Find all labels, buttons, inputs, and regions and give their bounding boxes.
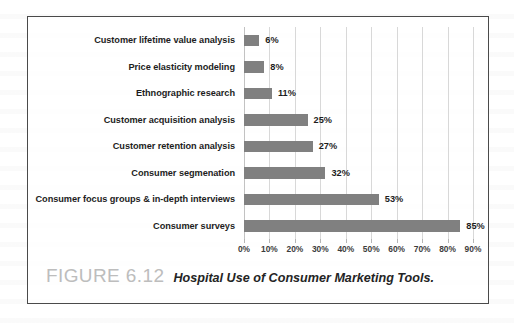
bar-value-label: 6% [265, 35, 278, 45]
bar-and-value: 53% [244, 186, 403, 213]
category-label: Consumer focus groups & in-depth intervi… [28, 194, 235, 204]
x-tick-label: 70% [414, 244, 431, 254]
bar [244, 35, 259, 47]
bar-value-label: 27% [319, 141, 337, 151]
bar [244, 194, 379, 206]
tick-mark [448, 239, 449, 243]
tick-mark [346, 239, 347, 243]
tick-mark [422, 239, 423, 243]
bar [244, 220, 460, 232]
bar [244, 88, 272, 100]
category-label: Consumer surveys [28, 221, 235, 231]
bar [244, 61, 264, 73]
x-tick-label: 0% [238, 244, 250, 254]
bar-row: Customer lifetime value analysis6% [28, 27, 488, 54]
category-label: Consumer segmenation [28, 168, 235, 178]
category-label: Customer retention analysis [28, 141, 235, 151]
bar-row: Consumer focus groups & in-depth intervi… [28, 186, 488, 213]
bar [244, 114, 308, 126]
tick-mark [295, 239, 296, 243]
x-tick-label: 40% [337, 244, 354, 254]
bar-row: Consumer segmenation32% [28, 160, 488, 187]
tick-mark [320, 239, 321, 243]
x-tick-label: 30% [312, 244, 329, 254]
category-label: Customer lifetime value analysis [28, 35, 235, 45]
bar-value-label: 8% [270, 62, 283, 72]
bar [244, 141, 313, 153]
bar-value-label: 53% [385, 194, 403, 204]
bar-value-label: 11% [278, 88, 296, 98]
category-label: Price elasticity modeling [28, 62, 235, 72]
x-tick-label: 60% [388, 244, 405, 254]
figure-caption: FIGURE 6.12 Hospital Use of Consumer Mar… [46, 265, 480, 287]
bar-row: Customer retention analysis27% [28, 133, 488, 160]
tick-mark [371, 239, 372, 243]
bar-and-value: 8% [244, 54, 284, 81]
category-label: Customer acquisition analysis [28, 115, 235, 125]
bar-and-value: 25% [244, 107, 332, 134]
figure-frame: Customer lifetime value analysis6%Price … [27, 16, 489, 304]
x-tick-label: 80% [439, 244, 456, 254]
x-tick-label: 10% [261, 244, 278, 254]
bar-and-value: 6% [244, 27, 279, 54]
bar-and-value: 85% [244, 213, 485, 240]
figure-number: FIGURE 6.12 [46, 265, 164, 287]
category-label: Ethnographic research [28, 88, 235, 98]
bar-value-label: 25% [314, 115, 332, 125]
tick-mark [397, 239, 398, 243]
x-tick-label: 50% [363, 244, 380, 254]
chart-bar-rows: Customer lifetime value analysis6%Price … [28, 27, 488, 239]
figure-title: Hospital Use of Consumer Marketing Tools… [173, 271, 434, 285]
tick-mark [269, 239, 270, 243]
bar-value-label: 32% [331, 168, 349, 178]
bar [244, 167, 325, 179]
bar-value-label: 85% [466, 221, 484, 231]
bar-chart: Customer lifetime value analysis6%Price … [28, 17, 488, 249]
tick-mark [473, 239, 474, 243]
bar-and-value: 27% [244, 133, 337, 160]
bar-row: Consumer surveys85% [28, 213, 488, 240]
bar-row: Customer acquisition analysis25% [28, 107, 488, 134]
bar-and-value: 11% [244, 80, 296, 107]
tick-mark [244, 239, 245, 243]
bar-row: Ethnographic research11% [28, 80, 488, 107]
x-tick-label: 90% [465, 244, 482, 254]
x-axis: 0%10%20%30%40%50%60%70%80%90% [244, 239, 473, 261]
bar-and-value: 32% [244, 160, 350, 187]
x-tick-label: 20% [286, 244, 303, 254]
bar-row: Price elasticity modeling8% [28, 54, 488, 81]
